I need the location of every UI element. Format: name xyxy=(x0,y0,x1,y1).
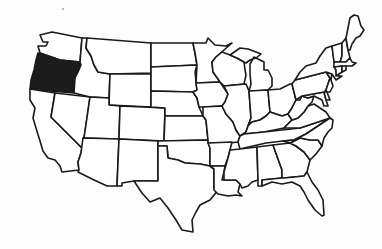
scan-speck xyxy=(62,8,64,10)
state-florida[interactable] xyxy=(262,172,324,216)
state-new-mexico[interactable] xyxy=(117,139,158,186)
state-rhode-island[interactable] xyxy=(342,66,346,72)
state-wyoming[interactable] xyxy=(109,74,151,107)
us-map-svg xyxy=(0,0,382,249)
us-map: United States map with Oregon highlighte… xyxy=(0,0,382,249)
state-connecticut[interactable] xyxy=(334,66,342,76)
state-maine[interactable] xyxy=(346,15,364,50)
state-delaware[interactable] xyxy=(324,92,330,100)
state-montana[interactable] xyxy=(86,38,151,74)
state-north-dakota[interactable] xyxy=(151,43,197,67)
state-kansas[interactable] xyxy=(164,116,208,141)
state-south-dakota[interactable] xyxy=(151,65,197,92)
state-arizona[interactable] xyxy=(78,138,119,186)
state-colorado[interactable] xyxy=(119,106,165,141)
